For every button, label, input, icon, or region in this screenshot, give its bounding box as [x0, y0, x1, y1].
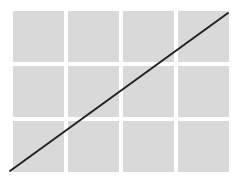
diagonal-line — [0, 0, 240, 182]
